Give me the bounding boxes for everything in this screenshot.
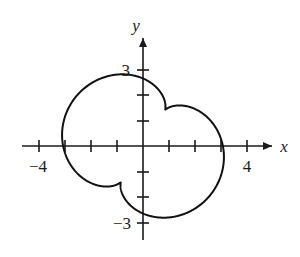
- graph-figure: y x 3 −3 −4 4: [0, 0, 300, 257]
- y-tick-label--3: −3: [113, 214, 131, 233]
- coordinate-plane: y x 3 −3 −4 4: [0, 0, 300, 257]
- x-tick-label-4: 4: [243, 157, 252, 176]
- y-tick-label-3: 3: [122, 61, 131, 80]
- y-axis-arrowhead: [139, 38, 147, 47]
- y-axis: [137, 38, 149, 240]
- x-tick-label--4: −4: [29, 157, 48, 176]
- y-axis-label: y: [130, 16, 140, 35]
- x-axis-label: x: [279, 137, 288, 156]
- x-axis: [22, 140, 272, 152]
- x-axis-arrowhead: [263, 142, 272, 150]
